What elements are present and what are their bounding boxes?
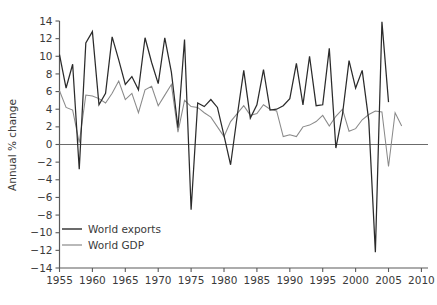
- y-tick-label: −10: [30, 226, 52, 238]
- y-tick-label: −14: [30, 262, 52, 274]
- series-line-world-exports: [60, 22, 389, 252]
- y-tick-label: 4: [46, 103, 53, 115]
- line-chart: −14−12−10−8−6−4−202468101214 19551960196…: [0, 0, 437, 305]
- x-tick-label: 1965: [112, 274, 139, 286]
- y-axis: −14−12−10−8−6−4−202468101214: [30, 15, 59, 274]
- x-axis: 1955196019651970197519801985199019952000…: [46, 268, 435, 286]
- y-tick-label: 8: [46, 68, 53, 80]
- chart-legend: World exportsWorld GDP: [62, 223, 161, 251]
- y-tick-label: −6: [37, 191, 53, 203]
- x-tick-label: 1975: [178, 274, 205, 286]
- y-tick-label: 0: [46, 138, 53, 150]
- y-tick-label: 2: [46, 120, 53, 132]
- x-tick-label: 1990: [276, 274, 303, 286]
- y-tick-label: −8: [37, 209, 52, 221]
- chart-container: −14−12−10−8−6−4−202468101214 19551960196…: [0, 0, 437, 305]
- x-tick-label: 1955: [46, 274, 73, 286]
- y-tick-label: 14: [39, 15, 53, 27]
- legend-item: World exports: [62, 223, 161, 235]
- x-tick-label: 1970: [145, 274, 172, 286]
- y-axis-title: Annual % change: [6, 99, 18, 191]
- y-tick-label: 6: [46, 85, 53, 97]
- y-tick-label: −2: [37, 156, 52, 168]
- x-tick-label: 1980: [211, 274, 238, 286]
- legend-item: World GDP: [62, 239, 144, 251]
- series-lines: [60, 22, 402, 252]
- legend-label: World exports: [88, 223, 161, 235]
- y-tick-label: −4: [37, 173, 53, 185]
- legend-label: World GDP: [88, 239, 144, 251]
- y-tick-label: 10: [39, 50, 52, 62]
- y-tick-label: −12: [30, 244, 52, 256]
- x-tick-label: 1995: [309, 274, 336, 286]
- y-tick-label: 12: [39, 32, 52, 44]
- x-tick-label: 2000: [342, 274, 369, 286]
- x-tick-label: 2010: [408, 274, 435, 286]
- x-tick-label: 1960: [79, 274, 106, 286]
- x-tick-label: 2005: [375, 274, 402, 286]
- series-line-world-gdp: [60, 81, 402, 167]
- x-tick-label: 1985: [244, 274, 271, 286]
- y-axis-title-text: Annual % change: [6, 99, 18, 191]
